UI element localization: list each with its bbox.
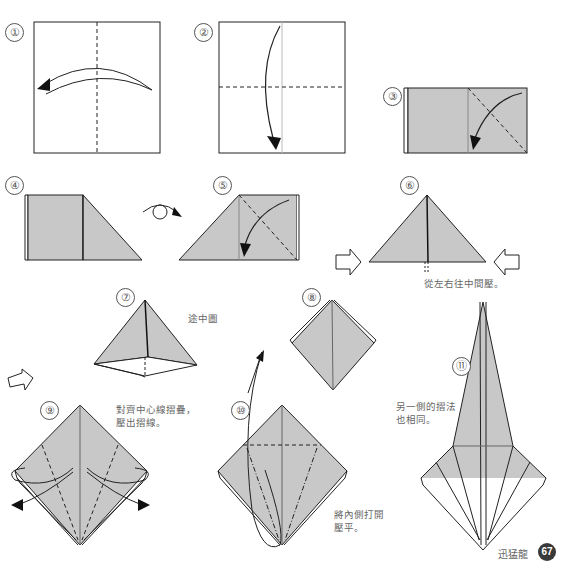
step-6-note: 從左右往中間壓。 — [424, 277, 504, 290]
step-number-8: ⑧ — [302, 288, 321, 307]
step-2-diagram — [219, 22, 345, 153]
step-4-diagram — [25, 195, 142, 260]
step-11-note-line-2: 也相同。 — [396, 413, 456, 426]
step-11-note-line-1: 另一側的摺法 — [396, 400, 456, 413]
step-number-7: ⑦ — [116, 288, 135, 307]
push-arrow-left-icon — [494, 249, 519, 275]
step-7-note: 途中圖 — [188, 312, 218, 325]
step-9-note-line-1: 對齊中心線摺疊， — [116, 403, 196, 416]
step-11-diagram — [421, 302, 546, 550]
step-3-diagram — [404, 88, 527, 153]
step-number-6: ⑥ — [400, 176, 419, 195]
step-number-11: ⑪ — [452, 357, 471, 376]
step-number-1: ① — [5, 23, 24, 42]
step-number-3: ③ — [383, 87, 402, 106]
step-number-2: ② — [194, 23, 213, 42]
step-7-diagram — [94, 300, 197, 377]
step-10-note: 將內側打開 壓平。 — [334, 508, 384, 534]
next-row-arrow-icon — [8, 369, 33, 390]
step-9-note-line-2: 壓出摺線。 — [116, 416, 196, 429]
page-number-badge: 67 — [538, 543, 556, 561]
footer-model-title: 迅猛龍 — [498, 546, 528, 561]
step-1-diagram — [34, 22, 160, 153]
push-arrow-right-icon — [336, 249, 361, 275]
step-9-note: 對齊中心線摺疊， 壓出摺線。 — [116, 403, 196, 429]
step-8-diagram — [290, 300, 376, 390]
step-10-note-line-1: 將內側打開 — [334, 508, 384, 521]
step-number-4: ④ — [5, 176, 24, 195]
step-number-9: ⑨ — [40, 401, 59, 420]
step-10-note-line-2: 壓平。 — [334, 521, 384, 534]
step-6-diagram — [336, 195, 519, 275]
step-number-5: ⑤ — [213, 176, 232, 195]
step-5-diagram — [179, 195, 299, 260]
step-number-10: ⑩ — [231, 401, 250, 420]
turn-over-icon — [143, 205, 182, 219]
step-11-note: 另一側的摺法 也相同。 — [396, 400, 456, 426]
